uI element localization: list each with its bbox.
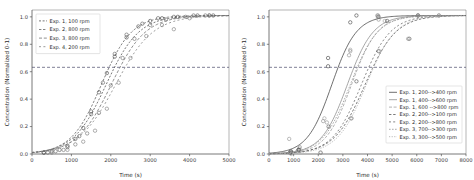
chart-panel-left: 0100020003000400050000.00.20.40.60.81.0T… bbox=[0, 0, 237, 180]
svg-text:0.2: 0.2 bbox=[20, 123, 28, 129]
svg-text:0.6: 0.6 bbox=[257, 69, 265, 75]
svg-text:5000: 5000 bbox=[222, 157, 235, 163]
svg-text:8000: 8000 bbox=[459, 157, 472, 163]
svg-text:Exp. 1, 100 rpm: Exp. 1, 100 rpm bbox=[50, 18, 90, 25]
svg-text:Exp. 2, 200-->100 rpm: Exp. 2, 200-->100 rpm bbox=[400, 111, 458, 118]
svg-text:0.0: 0.0 bbox=[257, 151, 265, 157]
svg-text:0.8: 0.8 bbox=[257, 41, 265, 47]
svg-text:Concentration (Normalized 0-1): Concentration (Normalized 0-1) bbox=[241, 38, 247, 126]
svg-text:2000: 2000 bbox=[104, 157, 117, 163]
svg-text:0.2: 0.2 bbox=[257, 123, 265, 129]
svg-text:Exp. 1, 200-->400 rpm: Exp. 1, 200-->400 rpm bbox=[400, 89, 458, 96]
left-chart-svg: 0100020003000400050000.00.20.40.60.81.0T… bbox=[0, 0, 237, 180]
svg-text:3000: 3000 bbox=[336, 157, 349, 163]
svg-text:0: 0 bbox=[267, 157, 270, 163]
svg-text:0.4: 0.4 bbox=[257, 96, 266, 102]
svg-text:4000: 4000 bbox=[361, 157, 374, 163]
right-chart-svg: 0100020003000400050006000700080000.00.20… bbox=[237, 0, 474, 180]
svg-text:Time (s): Time (s) bbox=[355, 172, 379, 178]
svg-text:Exp. 3, 700-->300 rpm: Exp. 3, 700-->300 rpm bbox=[400, 126, 458, 133]
svg-text:0: 0 bbox=[30, 157, 33, 163]
svg-text:2000: 2000 bbox=[312, 157, 325, 163]
svg-text:6000: 6000 bbox=[410, 157, 423, 163]
figure-two-panel-chart: 0100020003000400050000.00.20.40.60.81.0T… bbox=[0, 0, 474, 180]
svg-text:1000: 1000 bbox=[65, 157, 78, 163]
svg-text:Exp. 2, 800 rpm: Exp. 2, 800 rpm bbox=[50, 26, 90, 33]
svg-text:Exp. 1, 600 -->800 rpm: Exp. 1, 600 -->800 rpm bbox=[400, 104, 459, 111]
svg-text:Concentration (Normalized 0-1): Concentration (Normalized 0-1) bbox=[4, 38, 10, 126]
svg-text:Exp. 3, 800 rpm: Exp. 3, 800 rpm bbox=[50, 35, 90, 42]
svg-text:1.0: 1.0 bbox=[257, 14, 265, 20]
svg-text:1000: 1000 bbox=[287, 157, 300, 163]
svg-text:1.0: 1.0 bbox=[20, 14, 28, 20]
svg-text:Time (s): Time (s) bbox=[118, 172, 142, 178]
svg-text:4000: 4000 bbox=[183, 157, 196, 163]
svg-text:0.4: 0.4 bbox=[20, 96, 29, 102]
svg-text:0.6: 0.6 bbox=[20, 69, 28, 75]
svg-text:Exp. 3, 300-->500 rpm: Exp. 3, 300-->500 rpm bbox=[400, 134, 458, 141]
svg-text:Exp. 2, 200-->800 rpm: Exp. 2, 200-->800 rpm bbox=[400, 119, 458, 126]
svg-text:0.0: 0.0 bbox=[20, 151, 28, 157]
svg-text:3000: 3000 bbox=[144, 157, 157, 163]
svg-text:Exp. 4, 200 rpm: Exp. 4, 200 rpm bbox=[50, 44, 90, 51]
chart-panel-right: 0100020003000400050006000700080000.00.20… bbox=[237, 0, 474, 180]
svg-text:5000: 5000 bbox=[386, 157, 399, 163]
svg-text:Exp. 1, 400-->600 rpm: Exp. 1, 400-->600 rpm bbox=[400, 97, 458, 104]
svg-text:7000: 7000 bbox=[435, 157, 448, 163]
svg-text:0.8: 0.8 bbox=[20, 41, 28, 47]
